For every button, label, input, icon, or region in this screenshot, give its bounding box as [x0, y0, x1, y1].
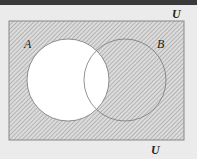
- set-b-label: B: [157, 37, 164, 52]
- universe-label-top: U: [172, 7, 181, 22]
- universe-label-bottom: U: [151, 143, 160, 158]
- set-a-label: A: [24, 37, 31, 52]
- set-a-circle: [27, 39, 109, 121]
- venn-diagram: [0, 0, 197, 159]
